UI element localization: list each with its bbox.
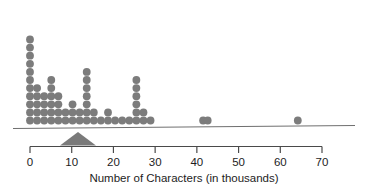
data-dot [47,100,55,108]
data-dot [33,100,41,108]
data-dot [111,117,119,125]
data-dot [83,109,91,117]
axis-tick-label: 20 [107,156,120,168]
data-dot [26,68,34,76]
axis-tick-label: 60 [274,156,287,168]
data-dot [26,92,34,100]
data-dot [97,117,105,125]
data-dot [132,100,140,108]
plot-baseline-rule [13,126,355,129]
data-dot [104,117,112,125]
data-dot [132,76,140,84]
data-dot [90,109,98,117]
data-dot [26,52,34,60]
data-dot [83,76,91,84]
data-dot [90,117,98,125]
data-dot [132,109,140,117]
data-dot [47,76,55,84]
x-axis-title: Number of Characters (in thousands) [89,172,278,184]
data-dot [54,109,62,117]
data-dot [204,117,212,125]
data-dot [26,117,34,125]
data-dot [54,117,62,125]
axis-tick-label: 10 [65,156,78,168]
data-dot [62,117,70,125]
data-dot [62,109,70,117]
data-dot [26,36,34,44]
dotplot-canvas: 010203040506070 Number of Characters (in… [0,0,368,192]
data-dot [76,117,84,125]
data-dot [147,117,155,125]
data-dot [26,76,34,84]
data-dot [47,109,55,117]
data-dot [69,109,77,117]
axis-tick-label: 50 [232,156,245,168]
data-dot [26,109,34,117]
data-dot [54,92,62,100]
data-dot [33,117,41,125]
data-dot [125,117,133,125]
data-dot [33,92,41,100]
data-dot [132,92,140,100]
data-dot [47,117,55,125]
dotplot-figure: 010203040506070 Number of Characters (in… [0,0,368,192]
data-dot [132,117,140,125]
axis-tick-label: 0 [27,156,33,168]
data-dot [26,44,34,52]
data-dot [47,84,55,92]
data-dot [83,84,91,92]
data-dot [26,60,34,68]
balance-point-triangle-icon [60,132,96,146]
data-dot [40,92,48,100]
data-dot [40,117,48,125]
data-dot [69,117,77,125]
data-dot [76,109,84,117]
axis-tick-label: 70 [316,156,329,168]
axis-tick-label: 40 [190,156,203,168]
data-dot [26,100,34,108]
data-dot [26,84,34,92]
data-dot [140,117,148,125]
data-dot [40,109,48,117]
dot-stack-layer [26,36,302,125]
data-dot [118,117,126,125]
axis-tick-label: 30 [149,156,162,168]
data-dot [83,100,91,108]
data-dot [33,109,41,117]
data-dot [47,92,55,100]
data-dot [132,84,140,92]
data-dot [140,109,148,117]
data-dot [69,100,77,108]
data-dot [54,100,62,108]
data-dot [294,117,302,125]
axis-ticks-layer: 010203040506070 [27,147,329,169]
data-dot [33,84,41,92]
data-dot [104,109,112,117]
data-dot [83,117,91,125]
data-dot [40,100,48,108]
data-dot [83,92,91,100]
data-dot [83,68,91,76]
